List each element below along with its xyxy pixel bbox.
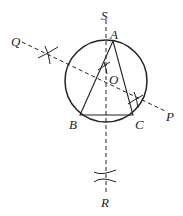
label-s: S xyxy=(101,8,108,23)
label-o: O xyxy=(109,72,119,87)
label-q: Q xyxy=(11,34,21,49)
label-a: A xyxy=(109,27,118,42)
label-p: P xyxy=(165,109,174,124)
label-r: R xyxy=(100,195,109,210)
arc-mark-q xyxy=(38,46,58,64)
bisector-qp xyxy=(22,42,165,111)
arc-mark-r xyxy=(94,170,116,182)
label-b: B xyxy=(69,117,77,132)
geometry-diagram: S Q A O B C P R xyxy=(0,0,183,216)
circumcircle xyxy=(65,40,147,122)
label-c: C xyxy=(135,117,144,132)
